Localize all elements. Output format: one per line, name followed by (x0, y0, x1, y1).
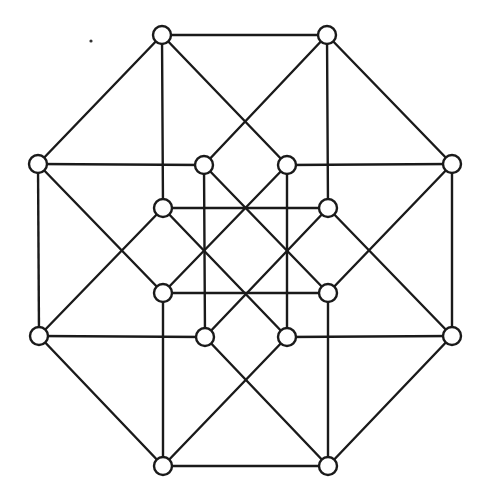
graph-edge-I1-I6 (204, 165, 205, 337)
graph-vertex-I3 (319, 199, 337, 217)
graph-edge-O7-O8 (38, 164, 39, 336)
graph-edge-O3-I2 (287, 164, 452, 165)
graph-nodes (29, 26, 461, 475)
graph-vertex-I4 (319, 284, 337, 302)
graph-vertex-O3 (443, 155, 461, 173)
graph-edge-O2-I3 (327, 35, 328, 208)
graph-vertex-I6 (196, 328, 214, 346)
scan-artifacts (89, 39, 92, 42)
graph-vertex-I8 (154, 199, 172, 217)
ink-speck (89, 39, 92, 42)
graph-edge-O7-I8 (39, 208, 163, 336)
graph-edge-O6-O7 (39, 336, 163, 466)
graph-vertex-O1 (153, 26, 171, 44)
graph-vertex-I2 (278, 156, 296, 174)
graph-vertex-O6 (154, 457, 172, 475)
graph-edges (38, 35, 452, 466)
graph-vertex-O2 (318, 26, 336, 44)
graph-vertex-O7 (30, 327, 48, 345)
graph-edge-O7-I6 (39, 336, 205, 337)
graph-vertex-O8 (29, 155, 47, 173)
graph-vertex-I5 (278, 328, 296, 346)
graph-edge-O4-O5 (328, 336, 452, 466)
graph-edge-O8-O1 (38, 35, 162, 164)
graph-edge-O8-I1 (38, 164, 204, 165)
graph-vertex-I1 (195, 156, 213, 174)
graph-edge-O2-O3 (327, 35, 452, 164)
graph-vertex-O4 (443, 327, 461, 345)
hypercube-graph-diagram (0, 0, 483, 499)
graph-edge-O1-I2 (162, 35, 287, 165)
graph-edge-O4-I5 (287, 336, 452, 337)
graph-edge-O1-I8 (162, 35, 163, 208)
graph-vertex-I7 (154, 284, 172, 302)
graph-edge-O2-I1 (204, 35, 327, 165)
graph-vertex-O5 (319, 457, 337, 475)
